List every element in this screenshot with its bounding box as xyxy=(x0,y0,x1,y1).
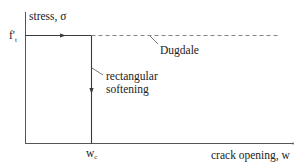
x-tick-label: wc xyxy=(86,147,97,161)
arrow-right-icon xyxy=(60,33,66,37)
x-tick-sub: c xyxy=(94,153,97,161)
x-axis-label: crack opening, w xyxy=(211,149,291,162)
rectangular-label-line1: rectangular xyxy=(106,70,158,83)
y-tick-sub: t xyxy=(15,36,17,44)
arrow-down-icon xyxy=(89,88,93,94)
y-axis-label: stress, σ xyxy=(29,10,67,23)
rectangular-leader-line xyxy=(92,68,103,75)
y-tick-label: f't xyxy=(9,29,17,44)
stress-crack-opening-diagram: stress, σ f't Dugdale rectangular soften… xyxy=(0,0,308,166)
dugdale-leader-line xyxy=(150,36,158,44)
dugdale-label: Dugdale xyxy=(160,44,199,57)
x-axis-end-dot xyxy=(292,143,294,145)
rectangular-label-line2: softening xyxy=(106,83,149,96)
